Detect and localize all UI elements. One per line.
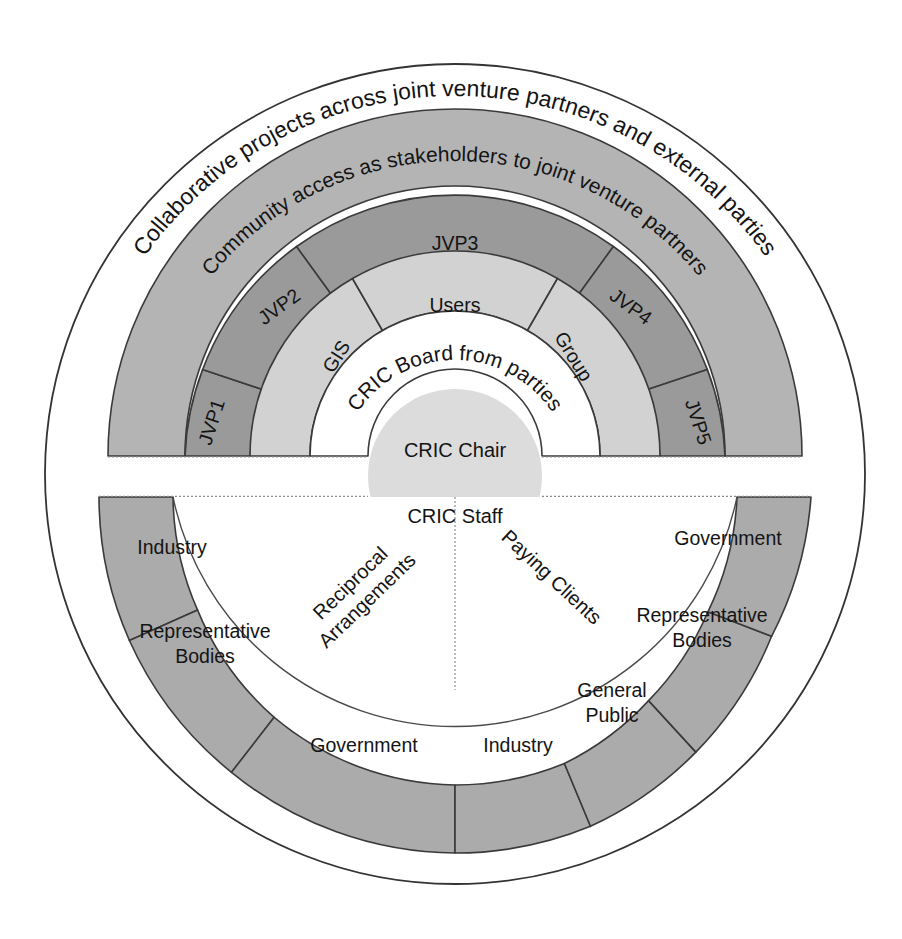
rep-bodies-left-line1: Representative	[139, 620, 270, 642]
bottom-industry-right-label: Industry	[483, 734, 553, 756]
rep-bodies-left-line2: Bodies	[175, 645, 235, 667]
cric-diagram: Collaborative projects across joint vent…	[0, 0, 902, 939]
cric-ring-diagram-canvas: Collaborative projects across joint vent…	[0, 0, 902, 939]
bottom-government-right-label: Government	[674, 527, 782, 549]
general-public-line1: General	[577, 679, 646, 701]
general-public-line2: Public	[585, 704, 638, 726]
users-label: Users	[430, 294, 481, 316]
rep-bodies-right-line2: Bodies	[672, 629, 732, 651]
cric-staff-label: CRIC Staff	[407, 505, 503, 527]
bottom-general-public-label: General Public	[577, 679, 646, 726]
bottom-government-left-label: Government	[310, 734, 418, 756]
cric-chair-label: CRIC Chair	[404, 439, 507, 461]
bottom-industry-left-label: Industry	[137, 536, 207, 558]
jvp3-label: JVP3	[432, 232, 479, 254]
rep-bodies-right-line1: Representative	[636, 604, 767, 626]
